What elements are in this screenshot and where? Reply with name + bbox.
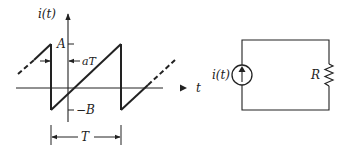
trough-label: −B: [76, 103, 95, 117]
y-axis-label: i(t): [38, 7, 56, 21]
period-label: T: [81, 130, 90, 144]
source-label: i(t): [212, 68, 230, 82]
wire-bottom: [242, 85, 329, 110]
resistor-label: R: [310, 68, 320, 82]
delay-label: aT: [82, 55, 98, 68]
wire-top: [242, 40, 329, 65]
x-axis-label: t: [196, 81, 201, 95]
resistor-icon: [325, 64, 333, 86]
ramp-2: [51, 44, 121, 110]
x-axis-arrow-icon: [180, 85, 187, 92]
waveform-plot: i(t) A aT −B T t: [16, 7, 201, 145]
circuit: i(t) R: [212, 40, 333, 110]
ramp-dashed-right: [148, 60, 175, 85]
figure: i(t) A aT −B T t i(t) R: [0, 0, 349, 153]
ramp-1: [34, 44, 51, 60]
peak-label: A: [56, 37, 66, 51]
ramp-3: [121, 85, 148, 110]
current-source-icon: [232, 65, 252, 85]
ramp-dashed-left: [18, 60, 34, 74]
